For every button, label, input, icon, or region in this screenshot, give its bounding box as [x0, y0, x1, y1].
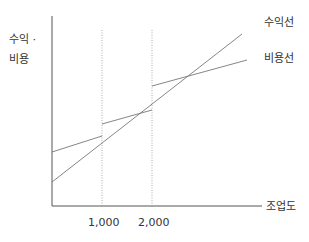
- x-axis-label: 조업도: [266, 200, 296, 213]
- cost-line-label: 비용선: [264, 52, 294, 65]
- cost-line-segment-1: [52, 136, 102, 152]
- cost-line-segment-2: [102, 110, 152, 124]
- revenue-line: [52, 34, 242, 182]
- y-axis-label-line2: 비용: [9, 53, 29, 66]
- x-tick-2000: 2,000: [138, 216, 170, 229]
- revenue-line-label: 수익선: [264, 16, 294, 29]
- cost-line-segment-3: [152, 60, 247, 86]
- chart-canvas: [0, 0, 309, 242]
- x-tick-1000: 1,000: [88, 216, 120, 229]
- y-axis-label-line1: 수익 ·: [9, 33, 36, 46]
